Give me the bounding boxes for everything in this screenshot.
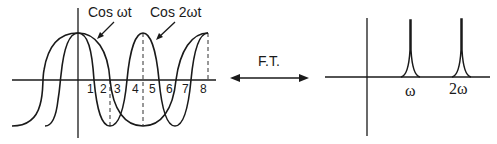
tick-label-5: 5	[149, 82, 156, 96]
ft-label: F.T.	[258, 53, 280, 69]
arrow-right-head-icon	[299, 74, 309, 82]
frequency-domain-plot: ω 2ω	[325, 18, 490, 136]
time-domain-plot: Cos ωt Cos 2ωt 1 2 3 4 5 6 7 8	[0, 0, 216, 138]
fourier-transform-arrow: F.T.	[230, 53, 309, 82]
arrow-left-head-icon	[230, 74, 240, 82]
tick-label-3: 3	[114, 82, 121, 96]
tick-label-1: 1	[87, 82, 94, 96]
cos-2wt-label: Cos 2ωt	[150, 4, 202, 20]
tick-label-4: 4	[132, 82, 139, 96]
tick-label-2: 2	[100, 82, 107, 96]
fourier-transform-diagram: Cos ωt Cos 2ωt 1 2 3 4 5 6 7 8 F.T. ω 2ω	[0, 0, 497, 144]
peak-2omega	[452, 19, 471, 77]
omega-label: ω	[405, 82, 416, 99]
tick-label-7: 7	[182, 82, 189, 96]
cos-wt-label: Cos ωt	[88, 4, 132, 20]
tick-label-6: 6	[166, 82, 173, 96]
tick-label-8: 8	[200, 82, 207, 96]
peak-omega	[401, 20, 420, 77]
two-omega-label: 2ω	[449, 80, 468, 97]
